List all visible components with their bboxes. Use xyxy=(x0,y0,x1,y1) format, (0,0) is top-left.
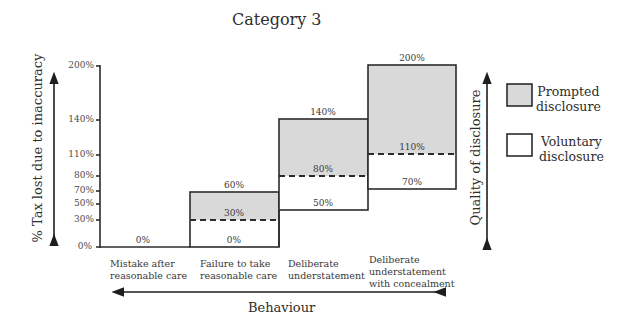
y-tick-50: 50% xyxy=(54,198,94,208)
box-deliberate-understatement xyxy=(279,119,368,247)
value-failure-mid: 30% xyxy=(214,208,254,218)
category-mistake: Mistake after reasonable care xyxy=(110,258,187,282)
y-tick-140: 140% xyxy=(54,114,94,124)
value-concealment-mid: 110% xyxy=(392,142,432,152)
y-tick-80: 80% xyxy=(54,170,94,180)
legend-voluntary-swatch xyxy=(507,134,532,156)
value-deliberate-mid: 80% xyxy=(303,164,343,174)
legend-prompted-label: Prompted disclosure xyxy=(536,84,601,114)
category-failure: Failure to take reasonable care xyxy=(200,258,277,282)
y-axis-label: % Tax lost due to inaccuracy xyxy=(30,73,45,243)
y-axis xyxy=(96,65,190,248)
y-tick-200: 200% xyxy=(54,60,94,70)
x-axis-label: Behaviour xyxy=(248,300,315,315)
y-tick-110: 110% xyxy=(54,149,94,159)
y-tick-70: 70% xyxy=(54,185,94,195)
legend-prompted-swatch xyxy=(507,84,532,106)
y-tick-30: 30% xyxy=(54,214,94,224)
value-mistake-0: 0% xyxy=(123,235,163,245)
value-deliberate-top: 140% xyxy=(303,107,343,117)
quality-axis-label: Quality of disclosure xyxy=(468,78,483,238)
category-concealment: Deliberate understatement with concealme… xyxy=(369,254,455,290)
box-deliberate-concealment xyxy=(368,65,456,189)
value-concealment-bottom: 70% xyxy=(392,177,432,187)
value-concealment-top: 200% xyxy=(392,53,432,63)
value-deliberate-bottom: 50% xyxy=(303,198,343,208)
category-deliberate: Deliberate understatement xyxy=(288,258,365,282)
value-failure-top: 60% xyxy=(214,180,254,190)
legend-voluntary-label: Voluntary disclosure xyxy=(539,134,604,164)
value-failure-bottom: 0% xyxy=(214,235,254,245)
y-tick-0: 0% xyxy=(52,241,92,251)
